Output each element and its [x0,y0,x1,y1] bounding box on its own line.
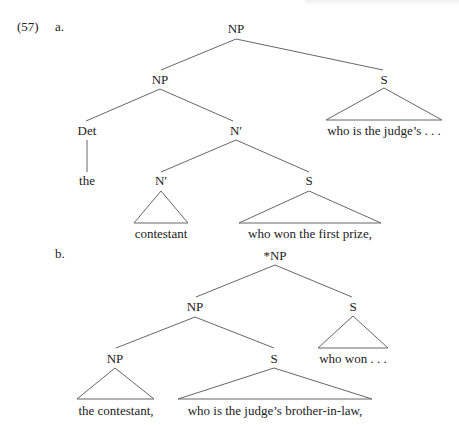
branch-a-np-nbar [160,89,233,121]
branch-a-nbar-s [236,140,309,172]
part-b-label: b. [55,247,65,261]
leaf-a-s-right-text: who is the judge’s . . . [327,124,441,138]
node-b-s-inner: S [270,352,277,366]
branch-a-root-np [161,39,236,70]
triangle-a-s-right [326,88,442,120]
node-a-s-inner: S [305,174,312,188]
part-a-label: a. [55,20,64,34]
branch-b-root-np [196,265,275,297]
leaf-a-s-inner-text: who won the first prize, [248,227,372,241]
leaf-a-the: the [79,174,95,188]
node-a-root-np: NP [228,22,245,36]
branch-b-root-s [275,265,352,297]
leaf-b-np-inner-text: the contestant, [78,404,153,418]
node-b-np-inner: NP [107,352,124,366]
branch-a-root-s [236,39,383,70]
node-a-s-right: S [380,73,387,87]
example-number: (57) [17,20,39,34]
node-b-root-np: *NP [263,249,286,263]
branch-b-np-np [116,317,195,348]
branch-a-nbar-nbar [161,140,236,172]
node-b-np: NP [187,300,204,314]
tree-branches [0,0,459,425]
node-a-nbar-inner: N′ [155,174,167,188]
branch-b-np-s [195,317,274,348]
node-a-nbar: N′ [230,124,242,138]
branch-a-np-det [86,89,160,121]
node-b-s-right: S [349,300,356,314]
leaf-a-contestant: contestant [135,227,188,241]
triangle-b-s-inner [178,368,372,399]
node-a-np: NP [152,73,169,87]
leaf-b-s-inner-text: who is the judge’s brother-in-law, [188,404,363,418]
triangle-b-np-inner [77,368,154,399]
triangle-a-s-inner [239,191,381,223]
triangle-b-s-right [318,316,388,348]
leaf-b-s-right-text: who won . . . [319,352,387,366]
triangle-a-contestant [134,191,188,223]
node-a-det: Det [78,124,97,138]
